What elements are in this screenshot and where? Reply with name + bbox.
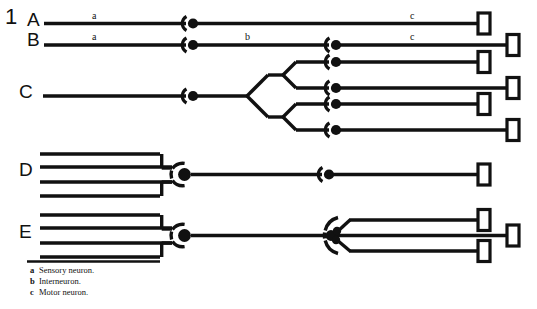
row-c-upper-branch-2 [283, 75, 296, 88]
end-plate-a [478, 13, 490, 34]
marker-a-row-b: a [92, 32, 96, 42]
bouton-e-upper [333, 227, 341, 235]
bouton-e-lower [332, 236, 340, 244]
legend-item-b: bInterneuron. [30, 276, 230, 287]
end-plate-b [507, 35, 519, 56]
cell-body-arc-e-upper [172, 224, 184, 229]
end-plate-e1 [478, 210, 490, 231]
row-c-fork-lower [247, 96, 268, 117]
marker-c-row-b: c [410, 32, 414, 42]
legend-text-a: Sensory neuron. [39, 265, 94, 275]
cell-body-arc-e-lower [172, 241, 184, 246]
end-plate-e3 [478, 241, 490, 262]
soma-c1 [331, 57, 341, 67]
row-c-fork-upper [247, 75, 268, 96]
soma-b1 [188, 40, 198, 50]
row-label-c: C [19, 82, 33, 101]
row-c-upper-branch-1 [283, 62, 296, 75]
cell-body-arc-d-upper [172, 163, 184, 168]
soma-c4 [331, 125, 341, 135]
soma-a [188, 18, 198, 28]
cell-body-arc-d-lower [172, 180, 184, 185]
figure-number: 1 [5, 6, 17, 28]
row-c-lower-branch-1 [283, 104, 296, 117]
legend-key-c: c [30, 287, 39, 298]
end-plate-e2 [507, 225, 519, 246]
row-label-d: D [19, 160, 33, 179]
legend-text-b: Interneuron. [39, 276, 81, 286]
soma-b2 [331, 40, 341, 50]
soma-d2 [324, 169, 334, 179]
row-c-lower-branch-2 [283, 117, 296, 130]
soma-d1 [178, 168, 191, 181]
legend-text-c: Motor neuron. [39, 287, 88, 297]
soma-c2 [331, 83, 341, 93]
marker-c-row-a: c [410, 11, 414, 21]
row-label-e: E [19, 222, 32, 241]
end-plate-c1 [478, 52, 490, 73]
row-label-a: A [27, 10, 40, 29]
end-plate-c2 [507, 78, 519, 99]
legend-key-b: b [30, 276, 39, 287]
cell-body-arc-e-left [171, 232, 172, 240]
legend-item-c: cMotor neuron. [30, 287, 230, 298]
cell-body-arc-d-left [171, 171, 172, 179]
end-plate-c3 [478, 94, 490, 115]
end-plate-c4 [507, 120, 519, 141]
end-plate-d [478, 164, 490, 185]
soma-c0 [188, 91, 198, 101]
legend-key-a: a [30, 265, 39, 276]
neural-circuit-diagram [0, 0, 537, 309]
legend-item-a: aSensory neuron. [30, 265, 230, 276]
soma-c3 [331, 99, 341, 109]
row-label-b: B [27, 30, 40, 49]
marker-a-row-a: a [92, 11, 96, 21]
soma-e1 [178, 229, 191, 242]
legend: aSensory neuron. bInterneuron. cMotor ne… [30, 265, 230, 299]
figure-root: 1 A B C D E a a b c c aSensory neuron. b… [0, 0, 537, 309]
marker-b-row-b: b [245, 32, 250, 42]
